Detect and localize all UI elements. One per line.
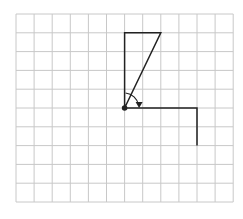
center-point	[122, 105, 128, 111]
rotation-diagram	[0, 0, 243, 219]
arrowhead-icon	[136, 102, 143, 108]
